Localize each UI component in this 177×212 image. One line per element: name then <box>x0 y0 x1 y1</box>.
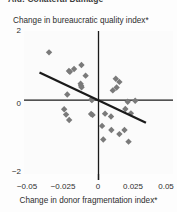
data-point <box>63 111 69 117</box>
data-point <box>100 136 106 142</box>
data-point <box>132 98 138 104</box>
data-point <box>125 99 131 105</box>
data-point <box>99 123 105 129</box>
data-point <box>121 127 127 133</box>
data-point <box>46 49 52 55</box>
data-point <box>64 91 70 97</box>
data-point <box>108 113 114 119</box>
data-point <box>102 110 108 116</box>
data-point <box>125 138 131 144</box>
scatter-plot-canvas <box>0 0 177 212</box>
data-point <box>66 117 72 123</box>
chart-figure: Aid: Collateral Damage Change in bureauc… <box>0 0 177 212</box>
data-point <box>82 72 88 78</box>
data-point <box>108 127 114 133</box>
data-point <box>61 106 67 112</box>
axis-lines <box>24 31 173 180</box>
data-point <box>116 131 122 137</box>
data-point <box>78 62 84 68</box>
